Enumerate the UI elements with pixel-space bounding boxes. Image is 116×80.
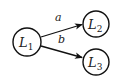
edge-l1-l3: b: [41, 33, 82, 58]
node-l1: L1: [13, 28, 41, 56]
node-l2: L2: [83, 11, 109, 37]
edge-label-a: a: [55, 11, 62, 24]
diagram-canvas: a b L1 L2 L3: [0, 0, 116, 80]
node-l3: L3: [83, 49, 109, 75]
edge-label-b: b: [58, 33, 65, 46]
arrow-b: [41, 46, 82, 58]
